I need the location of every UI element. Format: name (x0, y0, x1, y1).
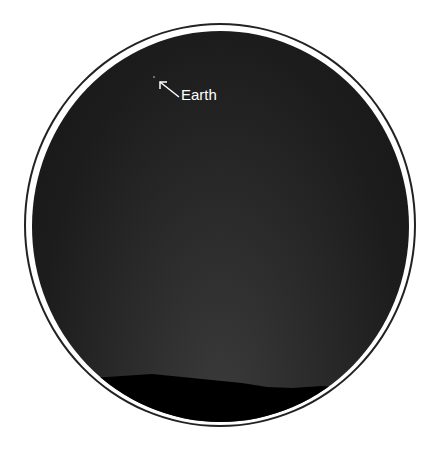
arrow-icon (158, 80, 180, 98)
earth-point (153, 76, 155, 78)
sky-view: Earth (32, 31, 409, 422)
horizon-silhouette (32, 352, 409, 422)
earth-label: Earth (181, 86, 217, 103)
